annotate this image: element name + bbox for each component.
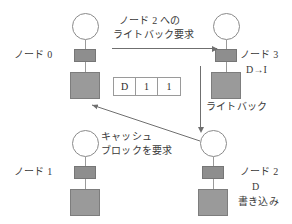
diagram-canvas: ノード 0 ノード 3 D→I ノード 1 ノード 2 D 書き込み ノード 2… xyxy=(0,0,292,224)
cache-block-request-arrow xyxy=(0,0,292,224)
cache-block-request-label-line2: ブロックを要求 xyxy=(101,145,172,158)
cache-block-request-label-line1: キャッシュ xyxy=(101,131,152,144)
